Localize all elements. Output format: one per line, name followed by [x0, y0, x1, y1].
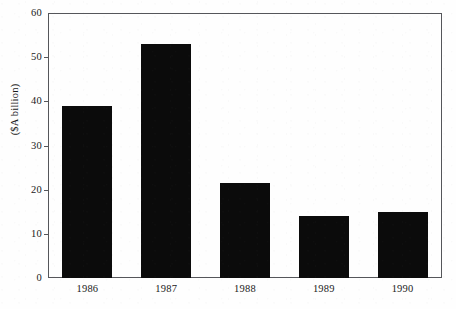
- y-tick-label: 40: [20, 96, 42, 107]
- y-tick-mark: [44, 146, 48, 147]
- bar-1987: [141, 44, 191, 278]
- y-tick-mark: [44, 190, 48, 191]
- y-tick-mark: [44, 101, 48, 102]
- y-tick-label: 10: [20, 229, 42, 240]
- x-tick-label: 1989: [284, 283, 363, 296]
- x-tick-label: 1986: [48, 283, 127, 296]
- bars-layer: [48, 13, 442, 278]
- bar-chart: ($A billion) 0102030405060 1986198719881…: [0, 0, 456, 309]
- bar-1989: [299, 216, 349, 278]
- y-tick-label: 60: [20, 8, 42, 19]
- x-tick-label: 1988: [206, 283, 285, 296]
- y-tick-label: 20: [20, 184, 42, 195]
- x-tick-label: 1987: [127, 283, 206, 296]
- x-axis-tick-labels: 19861987198819891990: [48, 283, 442, 299]
- y-tick-label: 50: [20, 52, 42, 63]
- y-tick-label: 30: [20, 140, 42, 151]
- bar-1986: [62, 106, 112, 278]
- y-axis-tick-labels: 0102030405060: [18, 13, 42, 278]
- x-tick-label: 1990: [363, 283, 442, 296]
- y-tick-mark: [44, 57, 48, 58]
- bar-1990: [378, 212, 428, 278]
- y-tick-mark: [44, 234, 48, 235]
- y-tick-label: 0: [20, 273, 42, 284]
- bar-1988: [220, 183, 270, 278]
